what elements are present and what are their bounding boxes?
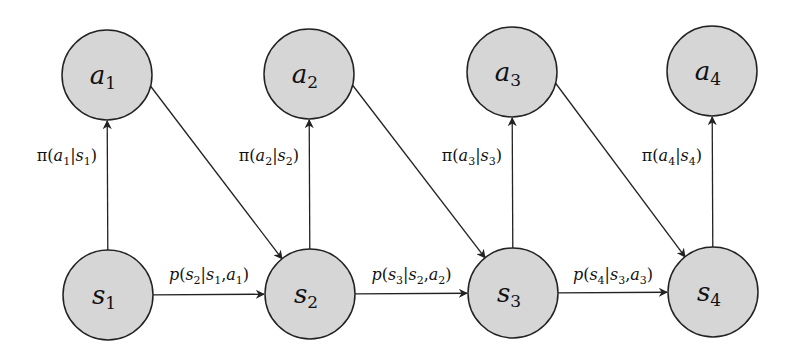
action-edge-a1-s2 (151, 86, 282, 259)
policy-label-a3: π(a3|s3) (442, 146, 502, 168)
transition-edge-s1-s2 (153, 294, 264, 295)
policy-label-a4: π(a4|s4) (642, 146, 702, 168)
mdp-diagram: a1a2a3a4s1s2s3s4 π(a1|s1)π(a2|s2)π(a3|s3… (0, 0, 796, 355)
action-edge-a3-s4 (556, 83, 685, 257)
policy-edge-s1-a1 (107, 121, 108, 250)
transition-label-s1-s2: p(s2|s1,a1) (169, 265, 249, 287)
policy-label-a1: π(a1|s1) (37, 146, 97, 168)
action-edge-a2-s3 (353, 85, 485, 258)
policy-edge-s2-a2 (309, 120, 310, 249)
policy-edge-s3-a3 (512, 118, 513, 248)
transition-edge-s3-s4 (558, 292, 667, 293)
policy-label-a2: π(a2|s2) (239, 146, 299, 168)
policy-edge-s4-a4 (712, 117, 713, 247)
transition-label-s2-s3: p(s3|s2,a2) (371, 265, 451, 287)
transition-label-s3-s4: p(s4|s3,a3) (573, 265, 653, 287)
transition-edge-s2-s3 (355, 293, 467, 294)
